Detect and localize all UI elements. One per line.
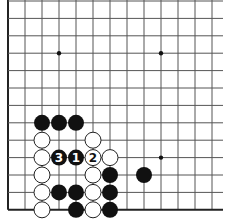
black-stone-move-1[interactable]: 1 <box>68 150 84 166</box>
black-stone[interactable] <box>51 184 67 200</box>
white-stone[interactable] <box>102 150 118 166</box>
white-stone[interactable] <box>34 150 50 166</box>
move-number-label: 3 <box>55 151 63 165</box>
move-number-label: 1 <box>72 151 80 165</box>
white-stone-icon <box>102 150 118 166</box>
black-stone-icon <box>136 167 152 183</box>
white-stone[interactable] <box>85 132 101 148</box>
black-stone-icon <box>34 115 50 131</box>
white-stone[interactable] <box>85 167 101 183</box>
go-board[interactable]: 312 <box>0 0 227 222</box>
black-stone-icon <box>68 115 84 131</box>
white-stone-icon <box>34 202 50 218</box>
black-stone[interactable] <box>51 115 67 131</box>
white-stone-icon <box>34 150 50 166</box>
star-point-icon <box>159 155 163 159</box>
black-stone[interactable] <box>34 115 50 131</box>
black-stone[interactable] <box>102 167 118 183</box>
white-stone[interactable] <box>34 132 50 148</box>
white-stone-icon <box>34 132 50 148</box>
white-stone-icon <box>85 202 101 218</box>
black-stone[interactable] <box>102 184 118 200</box>
white-stone[interactable] <box>85 202 101 218</box>
white-stone-icon <box>34 184 50 200</box>
black-stone-move-3[interactable]: 3 <box>51 150 67 166</box>
black-stone-icon <box>51 115 67 131</box>
white-stone[interactable] <box>85 184 101 200</box>
move-number-label: 2 <box>89 151 97 165</box>
black-stone-icon <box>68 202 84 218</box>
white-stone[interactable] <box>34 202 50 218</box>
black-stone[interactable] <box>68 115 84 131</box>
white-stone-icon <box>85 167 101 183</box>
black-stone[interactable] <box>68 202 84 218</box>
white-stone[interactable] <box>34 167 50 183</box>
black-stone-icon <box>68 184 84 200</box>
star-point-icon <box>57 51 61 55</box>
white-stone-icon <box>85 132 101 148</box>
white-stone-icon <box>34 167 50 183</box>
black-stone-icon <box>102 202 118 218</box>
black-stone-icon <box>102 184 118 200</box>
white-stone-icon <box>85 184 101 200</box>
black-stone[interactable] <box>68 184 84 200</box>
black-stone-icon <box>102 167 118 183</box>
star-point-icon <box>159 51 163 55</box>
black-stone[interactable] <box>136 167 152 183</box>
black-stone-icon <box>51 184 67 200</box>
black-stone[interactable] <box>102 202 118 218</box>
white-stone-move-2[interactable]: 2 <box>85 150 101 166</box>
white-stone[interactable] <box>34 184 50 200</box>
